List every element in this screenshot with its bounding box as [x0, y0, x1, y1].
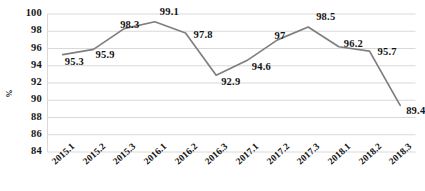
data-point-label: 95.9 [96, 49, 115, 60]
data-point-label: 89.4 [406, 105, 425, 116]
data-point-label: 99.1 [160, 6, 179, 17]
data-point-label: 94.6 [252, 61, 271, 72]
data-point-label: 98.3 [120, 19, 139, 30]
y-tick-label: 84 [14, 145, 42, 156]
y-tick-label: 92 [14, 76, 42, 87]
y-tick-label: 88 [14, 111, 42, 122]
data-point-label: 97 [275, 30, 286, 41]
y-axis-label-text: % [5, 89, 14, 97]
data-point-label: 95.7 [378, 46, 397, 57]
series-line [63, 22, 400, 106]
data-point-label: 92.9 [221, 76, 240, 87]
y-tick-label: 90 [14, 93, 42, 104]
data-point-label: 95.3 [65, 56, 84, 67]
y-tick-label: 86 [14, 128, 42, 139]
y-tick-label: 98 [14, 24, 42, 35]
y-tick-label: 96 [14, 42, 42, 53]
data-point-label: 97.8 [194, 29, 213, 40]
data-point-label: 96.2 [344, 38, 363, 49]
y-tick-label: 100 [14, 7, 42, 18]
y-tick-label: 94 [14, 59, 42, 70]
data-point-label: 98.5 [316, 11, 335, 22]
